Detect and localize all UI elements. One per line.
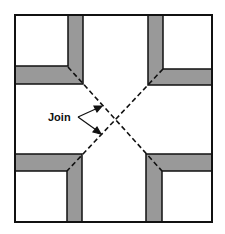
join-label: Join — [48, 111, 71, 123]
join-diagram: Join — [0, 0, 225, 234]
